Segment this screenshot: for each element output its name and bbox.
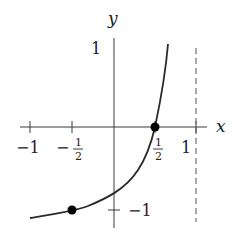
function-curve <box>30 44 168 218</box>
point-neg-half <box>68 206 77 215</box>
point-half <box>151 123 160 132</box>
x-tick-label-neg1: −1 <box>16 138 40 157</box>
y-axis-label: y <box>107 8 118 28</box>
x-tick-label-neg-half-den: 2 <box>75 150 82 163</box>
x-axis-label: x <box>216 116 226 136</box>
x-tick-label-neg-half-num: 1 <box>75 136 82 149</box>
x-tick-label-half-num: 1 <box>155 136 162 149</box>
x-tick-label-neg-half-sign: − <box>56 138 69 157</box>
x-tick-label-half-den: 2 <box>155 150 162 163</box>
function-plot: y x −1 − 1 2 1 2 1 1 −1 <box>0 0 242 242</box>
x-tick-label-1: 1 <box>181 138 191 157</box>
y-tick-label-neg1: −1 <box>128 201 152 220</box>
y-tick-label-1: 1 <box>91 39 101 58</box>
